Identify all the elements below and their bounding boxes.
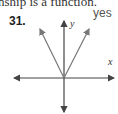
function-graph: y x xyxy=(0,0,118,114)
y-axis-label: y xyxy=(69,18,75,29)
x-axis-label: x xyxy=(107,56,113,67)
